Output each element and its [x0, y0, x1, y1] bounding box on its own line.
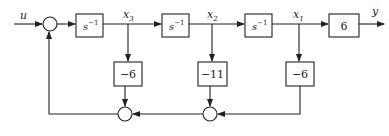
feedback-summing-junction-1	[118, 107, 132, 121]
state-label-x3: x3	[123, 8, 134, 23]
feedback-gain-label-x3: −6	[120, 68, 136, 81]
output-gain-label: 6	[341, 20, 348, 33]
main-summing-junction	[43, 17, 57, 31]
feedback-summing-junction-2	[203, 107, 217, 121]
state-label-x1: x1	[293, 8, 304, 23]
gain3-feedback-path	[218, 86, 300, 114]
feedback-gain-label-x2: −11	[201, 68, 224, 81]
output-label: y	[371, 5, 379, 18]
diagram-svg: u y x3 x2 x1 s−1 s−1 s−1 6 −6 −11 −6	[0, 0, 389, 136]
feedback-gain-label-x1: −6	[292, 68, 308, 81]
block-diagram: u y x3 x2 x1 s−1 s−1 s−1 6 −6 −11 −6	[0, 0, 389, 136]
state-label-x2: x2	[207, 8, 218, 23]
input-label: u	[20, 9, 27, 22]
main-feedback-path	[49, 32, 118, 114]
